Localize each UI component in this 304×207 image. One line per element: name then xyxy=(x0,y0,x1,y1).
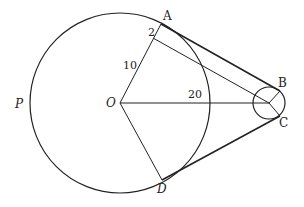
parallel-segment xyxy=(153,38,269,103)
tangent-line-dc xyxy=(162,116,280,180)
label-b: B xyxy=(278,76,287,90)
geometry-diagram: A B C D O P 2 10 20 xyxy=(0,0,304,207)
label-length-10: 10 xyxy=(123,59,137,72)
label-o: O xyxy=(106,96,116,110)
segment-od xyxy=(120,103,162,180)
small-radius-b xyxy=(269,91,280,103)
tangent-line-ab xyxy=(161,24,280,91)
small-radius-c xyxy=(269,103,280,116)
label-p: P xyxy=(14,97,24,111)
label-length-2: 2 xyxy=(148,26,155,39)
label-d: D xyxy=(156,182,167,196)
label-a: A xyxy=(162,9,172,23)
label-length-20: 20 xyxy=(188,88,202,101)
label-c: C xyxy=(279,116,288,130)
